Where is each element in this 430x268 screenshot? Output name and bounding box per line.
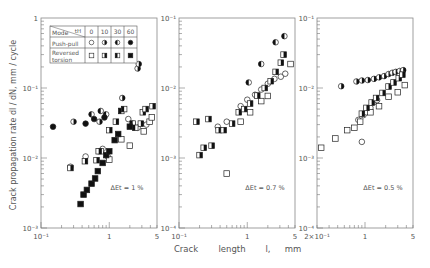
data-point bbox=[338, 83, 344, 89]
circle-marker bbox=[83, 121, 89, 127]
data-point bbox=[352, 125, 358, 131]
half-fill bbox=[118, 108, 121, 114]
half-fill bbox=[196, 119, 199, 125]
half-fill bbox=[146, 106, 149, 112]
half-fill bbox=[70, 165, 73, 171]
legend-square-marker bbox=[128, 53, 133, 58]
data-point bbox=[376, 103, 382, 109]
data-point bbox=[121, 106, 127, 112]
half-fill bbox=[109, 127, 112, 133]
square-marker bbox=[95, 168, 101, 174]
legend-col-30: 30 bbox=[114, 28, 122, 35]
data-point bbox=[265, 93, 271, 99]
y-tick-label: 10⁻¹ bbox=[299, 15, 315, 23]
square-marker bbox=[265, 93, 271, 99]
data-point bbox=[354, 79, 360, 85]
data-point bbox=[359, 111, 365, 117]
half-fill bbox=[383, 90, 386, 96]
data-point bbox=[127, 143, 133, 149]
square-marker bbox=[78, 201, 84, 207]
data-point bbox=[247, 101, 253, 107]
data-point bbox=[258, 61, 264, 67]
square-marker bbox=[141, 129, 147, 135]
data-point bbox=[344, 127, 350, 133]
data-point bbox=[288, 61, 294, 67]
square-marker bbox=[127, 124, 133, 130]
circle-marker bbox=[359, 139, 365, 145]
square-marker bbox=[288, 61, 294, 67]
y-tick-label: 10⁻³ bbox=[299, 155, 315, 163]
data-point bbox=[100, 160, 106, 166]
square-marker bbox=[92, 176, 98, 182]
square-marker bbox=[258, 98, 264, 104]
half-fill bbox=[232, 121, 235, 127]
half-fill bbox=[212, 143, 215, 149]
data-point bbox=[333, 136, 339, 142]
data-point bbox=[96, 148, 102, 154]
half-fill bbox=[121, 106, 124, 112]
data-point bbox=[78, 201, 84, 207]
circle-marker bbox=[282, 71, 288, 77]
data-point bbox=[138, 121, 144, 127]
square-marker bbox=[84, 187, 90, 193]
half-fill bbox=[366, 105, 369, 111]
data-point bbox=[71, 119, 77, 125]
half-fill bbox=[99, 148, 102, 154]
y-tick-label: 10⁻¹ bbox=[161, 15, 177, 23]
y-tick-label: 10⁻² bbox=[161, 85, 177, 93]
square-marker bbox=[149, 115, 155, 121]
data-point bbox=[224, 119, 230, 125]
x-tick-label: 5 bbox=[293, 233, 297, 241]
x-axis-label-l: l, bbox=[265, 244, 270, 254]
half-fill bbox=[105, 53, 107, 58]
data-point bbox=[357, 119, 363, 125]
square-marker bbox=[344, 127, 350, 133]
data-point bbox=[364, 105, 370, 111]
data-point bbox=[282, 71, 288, 77]
data-point bbox=[402, 82, 408, 88]
data-point bbox=[95, 168, 101, 174]
half-fill bbox=[265, 85, 268, 91]
square-marker bbox=[112, 137, 118, 143]
data-point bbox=[119, 95, 125, 101]
data-point bbox=[89, 181, 95, 187]
data-point bbox=[83, 121, 89, 127]
data-point bbox=[229, 121, 235, 127]
data-point bbox=[206, 116, 212, 122]
data-point bbox=[92, 176, 98, 182]
data-point bbox=[102, 115, 108, 121]
square-marker bbox=[127, 143, 133, 149]
circle-marker bbox=[102, 115, 108, 121]
square-marker bbox=[402, 82, 408, 88]
half-fill bbox=[224, 127, 227, 133]
data-point bbox=[94, 157, 100, 163]
half-fill bbox=[402, 72, 405, 78]
half-fill bbox=[200, 152, 203, 158]
square-marker bbox=[395, 89, 401, 95]
half-fill bbox=[271, 78, 274, 84]
square-marker bbox=[352, 125, 358, 131]
y-tick-label: 10⁻² bbox=[23, 155, 39, 163]
data-point bbox=[194, 119, 200, 125]
y-tick-label: 1 bbox=[34, 15, 38, 23]
square-marker bbox=[118, 136, 124, 142]
data-point bbox=[365, 77, 371, 83]
x-axis-label-crack: Crack bbox=[174, 244, 198, 254]
square-marker bbox=[376, 103, 382, 109]
data-point bbox=[115, 131, 121, 137]
data-point bbox=[268, 78, 274, 84]
data-point bbox=[282, 33, 288, 39]
half-fill bbox=[362, 111, 365, 117]
strain-range-annotation: ΔEt = 0.7 % bbox=[245, 184, 284, 192]
legend-table: ModetH0103060Push-pullReversedtorsion bbox=[50, 26, 137, 63]
data-point bbox=[84, 187, 90, 193]
half-fill bbox=[376, 95, 379, 101]
x-tick-label: 1 bbox=[107, 233, 111, 241]
half-fill bbox=[250, 101, 253, 107]
data-point bbox=[386, 94, 392, 100]
legend-header-mode: Mode bbox=[52, 29, 69, 36]
square-marker bbox=[386, 94, 392, 100]
square-marker bbox=[333, 136, 339, 142]
x-tick-label: 10⁻¹ bbox=[33, 233, 49, 241]
data-point bbox=[112, 137, 118, 143]
